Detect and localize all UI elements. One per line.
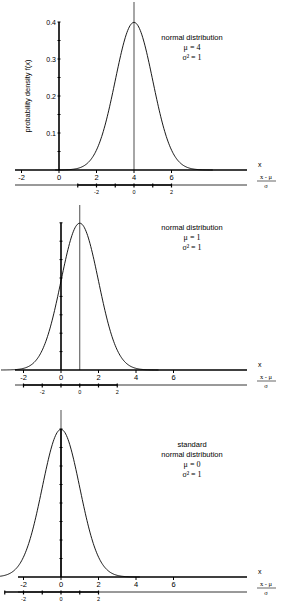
x-tick-label: 2 <box>96 373 100 382</box>
z-tick-label: 2 <box>170 189 173 195</box>
chart-panel-1: -20246-202xx - μσ0.10.20.30.4probability… <box>15 2 276 195</box>
y-tick-label: 0.4 <box>46 19 56 26</box>
x-tick-label: 6 <box>169 173 173 182</box>
y-tick-label: 0.2 <box>46 93 56 100</box>
x-axis-label: x <box>258 161 262 168</box>
z-axis-label-denominator: σ <box>264 182 268 189</box>
z-tick-label: -2 <box>94 189 99 195</box>
chart-panel-3: -20246-202xx - μσstandardnormal distribu… <box>0 410 276 601</box>
x-tick-label: -2 <box>20 580 27 589</box>
z-tick-label: 0 <box>132 189 135 195</box>
annotation-line: normal distribution <box>161 223 222 232</box>
y-axis-label: probability density f(x) <box>23 59 32 132</box>
annotation-line: standard <box>177 440 206 449</box>
annotation-line: σ² = 1 <box>182 53 201 62</box>
annotation-line: μ = 4 <box>184 43 201 52</box>
annotation-line: normal distribution <box>161 33 222 42</box>
annotation-line: σ² = 1 <box>182 470 201 479</box>
z-tick-label: 2 <box>116 389 119 395</box>
x-tick-label: 0 <box>59 580 63 589</box>
x-tick-label: 6 <box>171 580 175 589</box>
normal-distribution-figure: -20246-202xx - μσ0.10.20.30.4probability… <box>0 0 288 601</box>
x-tick-label: 2 <box>94 173 98 182</box>
z-tick-label: -2 <box>40 389 45 395</box>
annotation-line: normal distribution <box>161 450 222 459</box>
x-tick-label: 2 <box>96 580 100 589</box>
z-axis-label-denominator: σ <box>264 589 268 596</box>
z-axis-label-numerator: x - μ <box>260 173 273 180</box>
x-tick-label: 4 <box>134 373 138 382</box>
x-tick-label: 4 <box>132 173 136 182</box>
y-tick-label: 0.3 <box>46 56 56 63</box>
x-tick-label: -2 <box>18 173 25 182</box>
x-tick-label: -2 <box>20 373 27 382</box>
z-tick-label: 0 <box>78 389 81 395</box>
annotation-line: μ = 0 <box>184 460 201 469</box>
y-tick-label: 0.1 <box>46 130 56 137</box>
z-axis-label-numerator: x - μ <box>260 373 273 380</box>
z-axis-label-numerator: x - μ <box>260 580 273 587</box>
x-tick-label: 4 <box>134 580 138 589</box>
chart-panel-2: -20246-202xx - μσnormal distributionμ = … <box>1 205 276 395</box>
density-curve <box>0 429 140 577</box>
z-tick-label: -2 <box>21 596 26 601</box>
z-tick-label: 0 <box>59 596 62 601</box>
z-axis-label-denominator: σ <box>264 382 268 389</box>
x-tick-label: 0 <box>59 373 63 382</box>
annotation-line: σ² = 1 <box>182 243 201 252</box>
x-axis-label: x <box>258 361 262 368</box>
annotation-line: μ = 1 <box>184 233 201 242</box>
x-tick-label: 0 <box>57 173 61 182</box>
z-tick-label: 2 <box>97 596 100 601</box>
x-tick-label: 6 <box>171 373 175 382</box>
x-axis-label: x <box>258 568 262 575</box>
